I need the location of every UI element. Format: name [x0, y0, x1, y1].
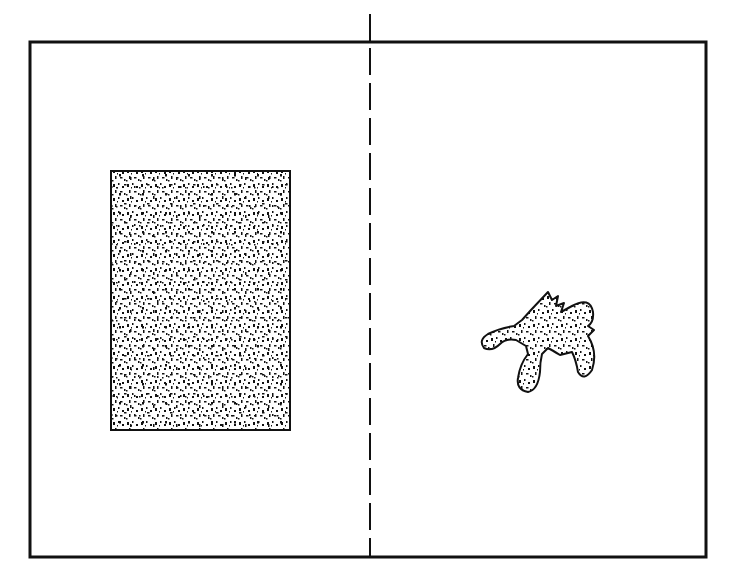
diagram-canvas — [0, 0, 734, 569]
left-stippled-rectangle — [111, 171, 290, 430]
diagram-svg — [0, 0, 734, 569]
right-stippled-blob — [482, 292, 595, 392]
